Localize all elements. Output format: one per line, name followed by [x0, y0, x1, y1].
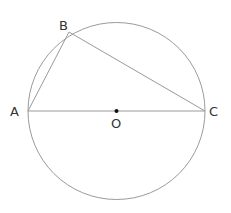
label-o: O — [111, 116, 121, 131]
label-b: B — [59, 18, 68, 33]
label-c: C — [209, 104, 218, 119]
segment-ab — [28, 32, 69, 111]
center-point-o — [115, 109, 119, 113]
geometry-diagram: A B C O — [0, 0, 231, 213]
label-a: A — [10, 104, 19, 119]
segment-bc — [69, 32, 205, 111]
